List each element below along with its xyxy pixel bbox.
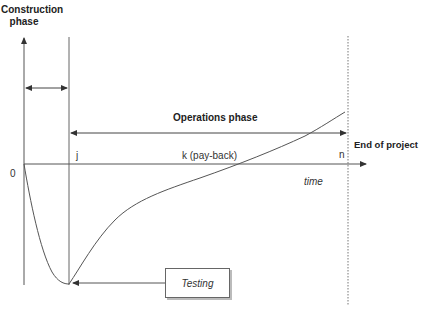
y-axis-label: Construction phase (1, 4, 47, 28)
marker-n-label: n (339, 149, 345, 160)
time-axis-label: time (304, 176, 323, 187)
y-axis-label-line-2: phase (1, 16, 47, 28)
end-of-project-label: End of project (354, 139, 418, 150)
origin-label: 0 (10, 168, 16, 179)
marker-j-label: j (76, 150, 78, 161)
y-axis-label-line-1: Construction (1, 4, 47, 16)
marker-k-label: k (pay-back) (182, 150, 237, 161)
operations-phase-label: Operations phase (173, 112, 257, 123)
cash-flow-curve (24, 112, 345, 284)
testing-callout-box: Testing (165, 268, 230, 298)
